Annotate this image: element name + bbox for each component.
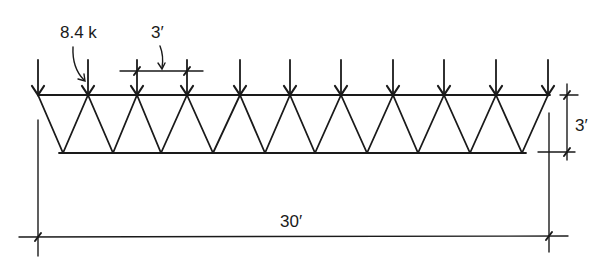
web-diagonal (240, 95, 265, 153)
web-diagonal (161, 95, 187, 153)
web-diagonal (341, 95, 367, 153)
load-arrows (32, 60, 554, 95)
web-diagonal (470, 95, 496, 153)
panel-dim-leader-arrow (158, 63, 165, 69)
web-diagonal (367, 95, 393, 153)
load-leader (73, 47, 84, 80)
web-diagonal (88, 95, 113, 153)
web-diagonal (315, 95, 341, 153)
web-diagonal (290, 95, 315, 153)
web-diagonal (113, 95, 137, 153)
web-diagonal (522, 95, 548, 153)
web-diagonal (265, 95, 290, 153)
web-diagonal (187, 95, 213, 153)
depth-label: 3′ (575, 117, 588, 134)
span-dim-line (19, 236, 568, 237)
web-diagonal (393, 95, 418, 153)
panel-dim-leader (160, 46, 163, 68)
panel-spacing-label: 3′ (151, 24, 164, 41)
web-diagonal (137, 95, 161, 153)
truss-members (38, 95, 550, 153)
web-diagonal (38, 95, 63, 153)
web-diagonal (418, 95, 444, 153)
truss-diagram: 8.4 k 3′ 3′ 30′ (0, 0, 607, 271)
load-label: 8.4 k (60, 24, 97, 41)
web-diagonal (213, 95, 240, 153)
web-diagonal (63, 95, 88, 153)
span-label: 30′ (280, 213, 302, 230)
web-diagonal (496, 95, 522, 153)
web-diagonal (444, 95, 470, 153)
